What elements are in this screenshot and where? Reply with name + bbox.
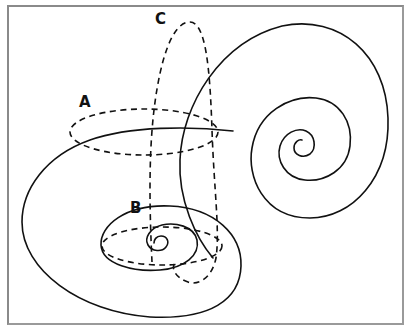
lower-left-spiral — [22, 128, 241, 317]
label-a: A — [79, 95, 91, 110]
diagram-figure: A B C — [0, 0, 408, 328]
label-b: B — [130, 201, 141, 216]
label-c: C — [155, 12, 166, 27]
plane-c-loop — [150, 22, 217, 283]
plane-a-ellipse — [70, 109, 218, 155]
spiral-diagram-svg — [0, 0, 408, 328]
